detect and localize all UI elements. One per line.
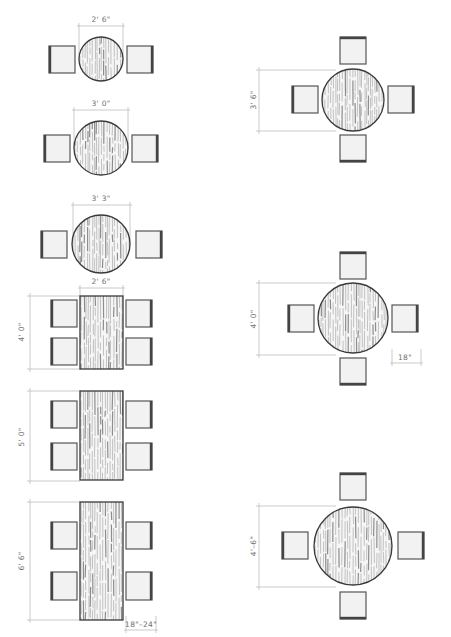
chair [41, 231, 67, 258]
chair [44, 135, 70, 162]
round-table [322, 69, 384, 131]
chair [340, 135, 366, 162]
clearance-label: 18"–24" [125, 620, 157, 629]
dining-layout-diagram: 2' 6"3' 0"3' 3"4' 0"2' 6"5' 0"6' 6"18"–2… [0, 0, 451, 637]
round-table [79, 37, 123, 81]
chair [51, 401, 77, 428]
chair [126, 338, 152, 365]
chair [340, 473, 366, 500]
width-label: 2' 6" [92, 277, 111, 286]
round-table [318, 283, 388, 353]
chair [126, 443, 152, 470]
rectangular-table [80, 296, 123, 369]
layout-round-2-seat-medium: 3' 0" [44, 99, 158, 175]
round-table [74, 121, 128, 175]
dimension-label: 3' 6" [249, 91, 258, 110]
rectangular-table [80, 391, 123, 480]
chair [51, 300, 77, 327]
layout-round-4-seat-small: 3' 6" [249, 37, 414, 162]
chair [292, 86, 318, 113]
wood-grain-texture [80, 391, 123, 480]
layout-round-2-seat-small: 2' 6" [49, 15, 153, 81]
dimension-label: 4' 0" [249, 310, 258, 329]
chair [398, 532, 424, 559]
chair [51, 522, 77, 549]
dimension-label: 6' 6" [17, 552, 26, 571]
chair [127, 46, 153, 73]
dimension-label: 5' 0" [17, 428, 26, 447]
dimension-label: 4' 0" [17, 323, 26, 342]
chair [388, 86, 414, 113]
dimension-label: 3' 0" [92, 99, 111, 108]
dimension-label: 4'–6" [249, 536, 258, 556]
chair [282, 532, 308, 559]
round-table [314, 507, 392, 585]
wood-grain-texture [80, 502, 123, 620]
chair [340, 37, 366, 64]
round-table [72, 215, 130, 273]
chair [51, 338, 77, 365]
clearance-label: 18" [398, 353, 412, 362]
chair [126, 300, 152, 327]
dimension-label: 3' 3" [92, 194, 111, 203]
chair [136, 231, 162, 258]
chair [132, 135, 158, 162]
chair [340, 358, 366, 385]
chair [340, 252, 366, 279]
dimension-label: 2' 6" [92, 15, 111, 24]
chair [392, 305, 418, 332]
layout-rect-4-seat: 4' 0"2' 6" [17, 277, 152, 372]
layout-round-4-seat-medium: 4' 0"18" [249, 252, 423, 385]
layout-rect-4-seat-long: 5' 0" [17, 388, 152, 484]
chair [51, 572, 77, 600]
chair [126, 522, 152, 549]
chair [340, 592, 366, 619]
chair [126, 572, 152, 600]
chair [51, 443, 77, 470]
chair [126, 401, 152, 428]
layout-round-2-seat-large: 3' 3" [41, 194, 162, 273]
wood-grain-texture [80, 296, 123, 369]
rectangular-table [80, 502, 123, 620]
chair [49, 46, 75, 73]
chair [288, 305, 314, 332]
layout-round-4-seat-large: 4'–6" [249, 473, 424, 619]
layout-rect-4-seat-extra-long: 6' 6"18"–24" [17, 499, 158, 633]
